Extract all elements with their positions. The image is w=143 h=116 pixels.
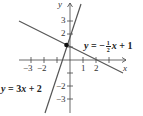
x-axis-label: x (123, 64, 127, 73)
fraction-denominator: 2 (106, 47, 111, 53)
y-tick-label: 2 (61, 29, 66, 38)
y-axis-label: y (58, 0, 62, 9)
eq-part: = − (88, 40, 104, 51)
y-tick-label: −2 (56, 82, 66, 91)
eq-part: + 2 (26, 83, 42, 94)
coordinate-plane (0, 0, 143, 116)
y-tick-label: −3 (56, 95, 66, 104)
x-tick-label: −2 (37, 64, 47, 73)
eq-part: + 1 (117, 40, 133, 51)
equation-label-line-1: y = 3x + 2 (1, 84, 42, 94)
x-tick-label: 1 (81, 64, 86, 73)
fraction: 12 (106, 40, 111, 53)
eq-part: = 3 (5, 83, 21, 94)
fraction-numerator: 1 (106, 40, 111, 47)
x-tick-label: −3 (23, 64, 33, 73)
intersection-point (64, 43, 69, 48)
equation-label-line-2: y = −12x + 1 (84, 40, 133, 53)
y-tick-label: 3 (61, 16, 66, 25)
x-tick-label: 2 (94, 64, 99, 73)
